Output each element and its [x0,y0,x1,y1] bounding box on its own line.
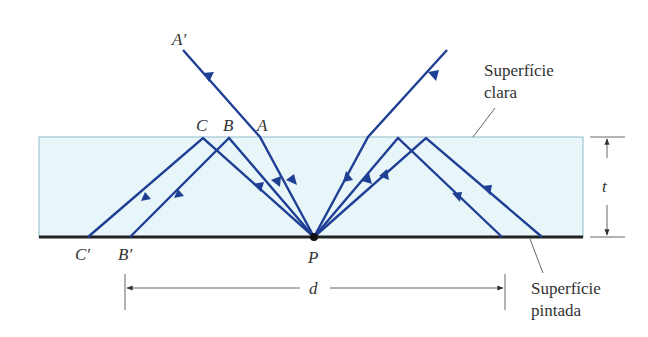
arrow-icon [203,72,214,82]
reflection-diagram: A′ C B A C′ B′ P Superfície clara Superf… [0,0,648,337]
glass-slab [39,137,583,237]
thickness-dimension [590,137,625,237]
painted-surface-label-2: pintada [531,301,581,320]
label-c: C [196,116,208,135]
clear-surface-label-1: Superfície [484,61,554,80]
label-a-prime: A′ [171,30,186,49]
label-b-prime: B′ [118,245,132,264]
label-c-prime: C′ [75,245,90,264]
label-t: t [602,177,608,196]
arrow-icon [428,70,439,81]
label-b: B [223,116,234,135]
painted-surface-label-1: Superfície [531,279,601,298]
clear-surface-label-2: clara [484,83,517,102]
label-d: d [309,279,318,298]
painted-surface-leader [530,239,543,273]
label-p: P [307,248,318,267]
label-a: A [256,116,268,135]
clear-surface-leader [473,108,495,137]
point-p [310,233,318,241]
